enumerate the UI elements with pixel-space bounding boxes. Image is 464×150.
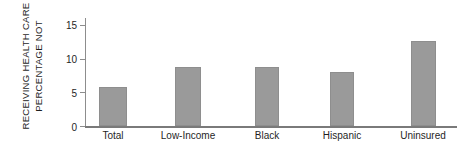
- y-tick-label-10: 10: [66, 54, 77, 65]
- y-tick-label-0: 0: [71, 121, 77, 132]
- plot-area: 0 5 10 15 Total Low-Income Black Hispani…: [85, 18, 457, 126]
- bar-total: [99, 87, 127, 126]
- y-axis-title: PERCENTAGE NOT RECEIVING HEALTH CARE: [0, 0, 62, 132]
- y-tick-label-5: 5: [71, 87, 77, 98]
- y-tick-label-15: 15: [66, 20, 77, 31]
- bar-chart-figure: PERCENTAGE NOT RECEIVING HEALTH CARE 0 5…: [0, 0, 464, 150]
- y-axis-title-line-2: RECEIVING HEALTH CARE: [18, 2, 31, 129]
- x-label-hispanic: Hispanic: [323, 130, 361, 141]
- y-axis-title-rotated: PERCENTAGE NOT RECEIVING HEALTH CARE: [18, 2, 44, 129]
- bar-uninsured: [411, 41, 436, 126]
- x-label-total: Total: [102, 130, 123, 141]
- x-label-low-income: Low-Income: [161, 130, 215, 141]
- y-axis-title-line-1: PERCENTAGE NOT: [31, 20, 44, 112]
- y-tick-10: 10: [80, 59, 85, 60]
- bar-black: [255, 67, 279, 126]
- y-tick-15: 15: [80, 25, 85, 26]
- bar-hispanic: [330, 72, 354, 126]
- y-axis-line: [85, 18, 86, 126]
- x-label-black: Black: [255, 130, 279, 141]
- x-axis-line: [85, 126, 457, 128]
- y-tick-5: 5: [80, 92, 85, 93]
- y-tick-0: 0: [80, 126, 85, 127]
- x-label-uninsured: Uninsured: [400, 130, 446, 141]
- bar-low-income: [175, 67, 201, 126]
